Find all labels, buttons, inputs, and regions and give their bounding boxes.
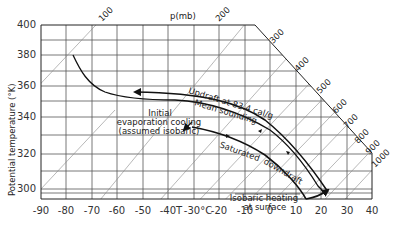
isobar-label: 600 [330, 97, 349, 116]
x-tick: 10 [290, 205, 303, 216]
x-tick: -60 [109, 205, 125, 216]
y-tick: 300 [17, 183, 36, 194]
saturated-label: Saturated [218, 139, 261, 163]
x-tick: -70 [84, 205, 100, 216]
x-tick: -40T [160, 205, 183, 216]
x-axis: -90 -80 -70 -60 -50 -40T -30°C -20 -10 0… [33, 205, 379, 216]
y-axis-title: Potential temperature (°K) [7, 83, 17, 196]
thermodynamic-diagram: 400 380 360 340 320 300 Potential temper… [0, 0, 402, 236]
y-tick: 340 [17, 111, 36, 122]
isobaric-label-2: at surface [244, 202, 287, 212]
isobar-labels: p(mb) 100 200 300 400 500 600 700 800 90… [96, 5, 391, 170]
y-tick: 320 [17, 148, 36, 159]
x-tick: -90 [33, 205, 49, 216]
y-axis: 400 380 360 340 320 300 Potential temper… [7, 19, 36, 196]
y-tick: 360 [17, 80, 36, 91]
x-tick: 20 [315, 205, 328, 216]
saturated-downdraft-curve [192, 127, 306, 199]
x-tick: -50 [135, 205, 151, 216]
isobar-label: 200 [213, 5, 232, 24]
grid [41, 25, 372, 199]
x-tick: 40 [366, 205, 379, 216]
isobar-title: p(mb) [170, 11, 196, 21]
isobar-label: 800 [352, 127, 371, 146]
x-tick: -30°C [184, 205, 212, 216]
isobaric-heating-curve [306, 190, 328, 199]
x-tick: -20 [211, 205, 227, 216]
y-tick: 380 [17, 49, 36, 60]
x-tick: -80 [58, 205, 74, 216]
x-tick: 30 [341, 205, 354, 216]
isobar-label: 100 [96, 5, 115, 24]
plot-boundary [41, 25, 372, 199]
y-tick: 400 [17, 19, 36, 30]
initial-label-3: (assumed isobaric) [119, 126, 200, 136]
